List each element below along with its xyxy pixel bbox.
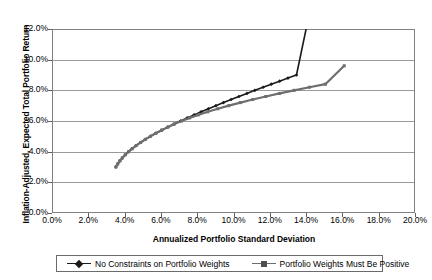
series-layer: [52, 29, 415, 213]
data-point: [121, 156, 124, 159]
data-point: [293, 89, 296, 92]
data-point: [139, 141, 142, 144]
series-positive-weights: [114, 64, 345, 168]
data-point: [116, 162, 119, 165]
y-tick-label: 8.0%: [4, 85, 48, 94]
data-point: [227, 104, 230, 107]
x-tick-label: 0.0%: [32, 215, 72, 225]
x-tick-mark: [306, 213, 307, 217]
data-point: [197, 113, 200, 116]
data-point: [166, 126, 169, 129]
y-tick-label: 4.0%: [4, 147, 48, 156]
x-tick-mark: [415, 213, 416, 217]
y-tick-mark: [48, 213, 52, 214]
y-axis-tick-labels: 0.0%2.0%4.0%6.0%8.0%10.0%12.0%: [0, 0, 48, 213]
data-point: [135, 144, 138, 147]
y-tick-mark: [48, 29, 52, 30]
y-tick-label: 10.0%: [4, 55, 48, 64]
y-tick-mark: [48, 182, 52, 183]
data-point: [127, 150, 130, 153]
data-point: [216, 107, 219, 110]
legend-item-positive-weights: Portfolio Weights Must Be Positive: [252, 259, 410, 269]
legend-label: No Constraints on Portfolio Weights: [95, 259, 230, 269]
data-point: [206, 110, 209, 113]
series-no-constraints: [114, 29, 306, 169]
x-tick-mark: [342, 213, 343, 217]
data-point: [118, 159, 121, 162]
y-tick-label: 2.0%: [4, 177, 48, 186]
x-tick-label: 20.0%: [395, 215, 432, 225]
data-point: [188, 116, 191, 119]
x-tick-mark: [197, 213, 198, 217]
x-tick-mark: [125, 213, 126, 217]
x-tick-mark: [379, 213, 380, 217]
data-point: [149, 135, 152, 138]
data-point: [278, 92, 281, 95]
data-point: [114, 166, 117, 169]
y-tick-mark: [48, 121, 52, 122]
data-point: [131, 147, 134, 150]
x-tick-mark: [234, 213, 235, 217]
data-point: [154, 132, 157, 135]
x-axis-title: Annualized Portfolio Standard Deviation: [52, 234, 416, 244]
diamond-marker-icon: [67, 259, 91, 268]
data-point: [308, 86, 311, 89]
data-point: [239, 101, 242, 104]
data-point: [264, 95, 267, 98]
y-tick-mark: [48, 60, 52, 61]
y-tick-mark: [48, 90, 52, 91]
legend-item-no-constraints: No Constraints on Portfolio Weights: [67, 259, 230, 269]
data-point: [124, 153, 127, 156]
data-point: [144, 138, 147, 141]
data-point: [160, 129, 163, 132]
square-marker-icon: [252, 259, 276, 268]
data-point: [180, 120, 183, 123]
efficient-frontier-chart: Inflation-Adjusted, Expected Total Portf…: [0, 0, 432, 280]
chart-legend: No Constraints on Portfolio Weights Port…: [56, 255, 383, 272]
data-point: [343, 64, 346, 67]
data-point: [324, 83, 327, 86]
x-axis-tick-labels: 0.0%2.0%4.0%6.0%8.0%10.0%12.0%14.0%16.0%…: [0, 215, 432, 229]
y-tick-mark: [48, 152, 52, 153]
x-tick-mark: [161, 213, 162, 217]
y-tick-label: 12.0%: [4, 24, 48, 33]
legend-label: Portfolio Weights Must Be Positive: [280, 259, 410, 269]
y-tick-label: 6.0%: [4, 116, 48, 125]
data-point: [251, 98, 254, 101]
data-point: [173, 123, 176, 126]
x-tick-mark: [270, 213, 271, 217]
x-tick-mark: [88, 213, 89, 217]
